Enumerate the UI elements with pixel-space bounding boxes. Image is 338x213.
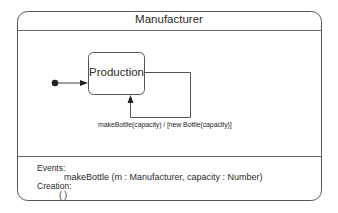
class-title: Manufacturer <box>17 13 321 25</box>
events-heading: Events: <box>37 163 65 173</box>
initial-transition-arrowhead <box>80 80 88 86</box>
creation-item: ( ) <box>59 190 67 200</box>
initial-state-dot <box>52 80 59 87</box>
state-label-production[interactable]: Production <box>88 66 145 78</box>
event-item: makeBottle (m : Manufacturer, capacity :… <box>64 172 263 182</box>
self-transition-arrowhead <box>128 95 134 103</box>
self-transition-label: makeBottle(capacity) / [new Bottle(capac… <box>98 121 232 128</box>
